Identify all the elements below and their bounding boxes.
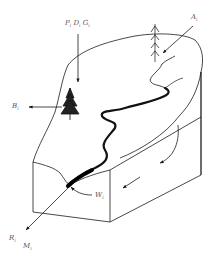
arrow-aerosol-in — [163, 26, 193, 53]
label-a: Ai — [191, 14, 198, 23]
label-g-sub: i — [88, 23, 89, 28]
stream-thick-outlet — [68, 170, 92, 186]
label-a-sub: i — [196, 17, 197, 22]
arrow-subsurface-curved — [160, 125, 178, 163]
label-p-sub: i — [70, 23, 71, 28]
arrow-weathering — [71, 187, 92, 195]
arrow-subsurface-left — [123, 177, 140, 188]
stream — [70, 88, 169, 185]
label-b: Bi — [12, 103, 19, 112]
watershed-diagram — [0, 0, 213, 263]
block-side-face — [110, 72, 201, 222]
label-m-sub: i — [30, 246, 31, 251]
label-w: Wi — [95, 192, 104, 201]
label-w-sub: i — [102, 195, 103, 200]
label-m: Mi — [23, 243, 32, 252]
conifer-tree-small-icon — [151, 24, 159, 62]
stream-tributary-side — [165, 78, 183, 88]
label-r: Ri — [9, 235, 16, 244]
label-b-sub: i — [17, 106, 18, 111]
label-pdg: Pi Di Gi — [65, 20, 90, 29]
label-r-sub: i — [14, 238, 15, 243]
label-d-sub: i — [79, 23, 80, 28]
stream-tributary-upper — [150, 56, 175, 88]
conifer-tree-large-icon — [61, 88, 79, 120]
